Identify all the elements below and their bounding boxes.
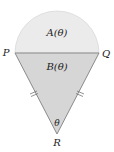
label-theta: θ — [54, 118, 60, 128]
label-b-theta: B(θ) — [45, 61, 67, 72]
semicircle-triangle-diagram: A(θ) B(θ) P Q θ R — [0, 0, 114, 152]
label-q: Q — [102, 48, 110, 59]
label-a-theta: A(θ) — [45, 27, 67, 38]
label-p: P — [2, 47, 10, 58]
label-r: R — [52, 137, 61, 148]
